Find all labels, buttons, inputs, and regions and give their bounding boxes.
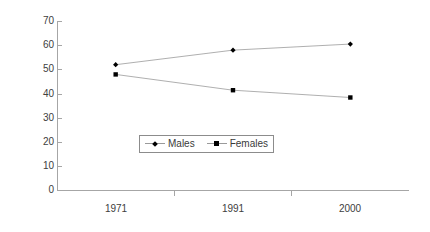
y-axis-label-20: 20 — [26, 137, 54, 147]
x-axis-label-2000: 2000 — [320, 203, 380, 214]
y-axis-label-40: 40 — [26, 89, 54, 99]
data-point[interactable] — [348, 41, 353, 46]
data-point[interactable] — [113, 72, 117, 76]
x-axis-label-1991: 1991 — [203, 203, 263, 214]
data-point[interactable] — [231, 88, 235, 92]
series-line — [116, 74, 351, 97]
y-axis-label-60: 60 — [26, 40, 54, 50]
y-axis-label-30: 30 — [26, 113, 54, 123]
legend: Males Females — [139, 135, 274, 153]
y-axis-label-50: 50 — [26, 64, 54, 74]
series-line — [116, 44, 351, 65]
data-point[interactable] — [230, 48, 235, 53]
y-axis-label-0: 0 — [26, 185, 54, 195]
legend-entry-males[interactable]: Males — [145, 138, 195, 149]
legend-label-females: Females — [230, 138, 268, 149]
x-axis-tick — [174, 191, 175, 196]
diamond-marker-icon — [145, 139, 165, 148]
plot-area — [57, 21, 409, 191]
line-chart: 70 60 50 40 30 20 10 0 1971 1991 2000 Ma… — [0, 0, 430, 232]
square-marker-icon — [207, 139, 227, 148]
series-layer — [57, 21, 409, 191]
series-males — [113, 41, 353, 67]
x-axis-label-1971: 1971 — [86, 203, 146, 214]
data-point[interactable] — [113, 62, 118, 67]
x-axis-tick — [291, 191, 292, 196]
y-axis-label-70: 70 — [26, 16, 54, 26]
data-point[interactable] — [348, 95, 352, 99]
legend-entry-females[interactable]: Females — [207, 138, 268, 149]
series-females — [113, 72, 352, 99]
legend-label-males: Males — [168, 138, 195, 149]
y-axis-label-10: 10 — [26, 161, 54, 171]
